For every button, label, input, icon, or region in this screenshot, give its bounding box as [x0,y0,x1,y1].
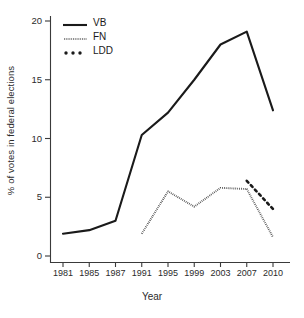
series-line-ldd [247,181,273,209]
legend-key-bold-dotted-line-icon [62,45,88,57]
legend-item-fn: FN [62,30,146,44]
chart-legend: VB FN LDD [62,16,146,58]
legend-label-fn: FN [93,31,106,43]
legend-item-ldd: LDD [62,44,146,58]
legend-label-ldd: LDD [93,45,113,57]
legend-key-solid-line-icon [62,17,88,29]
series-line-fn [142,188,273,237]
x-axis-label: Year [0,291,304,302]
data-series-group [63,32,273,238]
legend-item-vb: VB [62,16,146,30]
plot-area [0,0,304,318]
series-line-vb [63,32,273,234]
legend-key-fine-dotted-line-icon [62,31,88,43]
chart-figure: % of votes in federal elections 05101520… [0,0,304,318]
legend-label-vb: VB [93,17,106,29]
